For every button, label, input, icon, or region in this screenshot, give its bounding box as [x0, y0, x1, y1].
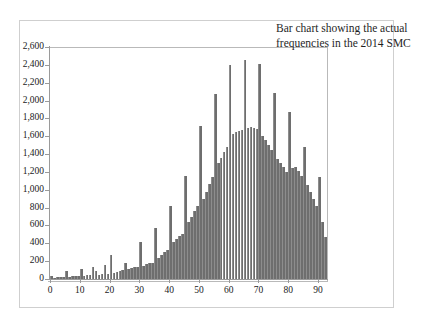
- x-axis-tick: [50, 280, 51, 283]
- x-axis-tick: [139, 280, 140, 283]
- x-axis-tick: [80, 280, 81, 283]
- y-axis-tick-label: 1,600: [0, 131, 44, 141]
- x-axis-tick: [229, 280, 230, 283]
- y-axis-tick-label: 2,400: [0, 60, 44, 70]
- x-axis-tick-label: 20: [98, 285, 122, 296]
- y-axis-tick-label: 600: [0, 220, 44, 230]
- y-axis-tick-label: 2,600: [0, 42, 44, 52]
- x-axis-tick-label: 70: [246, 285, 270, 296]
- x-axis-tick: [318, 280, 319, 283]
- bar: [324, 237, 327, 279]
- y-axis-tick-label: 800: [0, 203, 44, 213]
- plot-area: [50, 47, 327, 279]
- y-axis-tick-label: 400: [0, 238, 44, 248]
- y-axis-tick-label: 200: [0, 256, 44, 266]
- y-axis-tick-label: 1,800: [0, 113, 44, 123]
- y-axis-tick-label: 2,000: [0, 96, 44, 106]
- x-axis-tick: [110, 280, 111, 283]
- x-axis-tick-label: 40: [157, 285, 181, 296]
- x-axis-tick-label: 10: [68, 285, 92, 296]
- chart-caption: Bar chart showing the actual frequencies…: [276, 21, 428, 50]
- x-axis-tick-label: 0: [38, 285, 62, 296]
- y-axis-tick-label: 2,200: [0, 78, 44, 88]
- y-axis-tick-label: 1,200: [0, 167, 44, 177]
- x-axis-tick-label: 60: [217, 285, 241, 296]
- x-axis-line: [49, 279, 328, 280]
- figure-container: 02004006008001,0001,2001,4001,6001,8002,…: [0, 0, 433, 328]
- y-axis-tick-label: 0: [0, 274, 44, 284]
- x-axis-tick: [258, 280, 259, 283]
- x-axis-tick-label: 30: [127, 285, 151, 296]
- y-axis-tick-label: 1,000: [0, 185, 44, 195]
- x-axis-tick: [288, 280, 289, 283]
- x-axis-tick-label: 90: [306, 285, 330, 296]
- y-axis-tick-label: 1,400: [0, 149, 44, 159]
- x-axis-tick-label: 50: [187, 285, 211, 296]
- x-axis-tick: [169, 280, 170, 283]
- x-axis-tick: [199, 280, 200, 283]
- x-axis-tick-label: 80: [276, 285, 300, 296]
- bars-layer: [50, 47, 327, 279]
